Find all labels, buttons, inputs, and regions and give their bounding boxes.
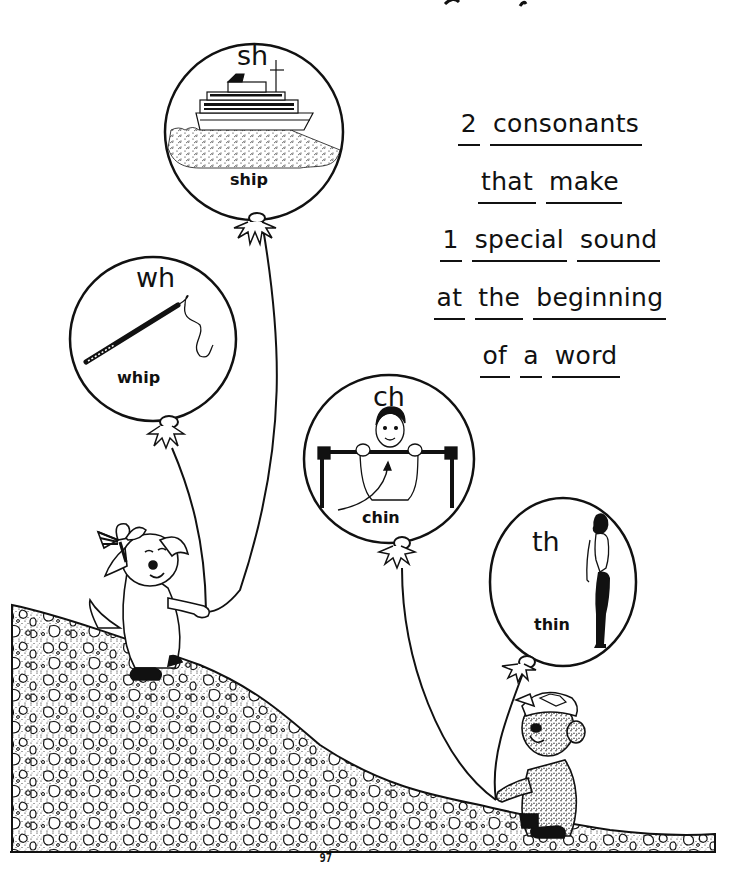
rule-line-5: of a word <box>400 320 700 378</box>
balloon-sh <box>165 44 343 244</box>
rule-word: make <box>546 167 622 204</box>
digraph-label-wh: wh <box>136 262 175 293</box>
rule-line-1: 2 consonants <box>400 88 700 146</box>
digraph-label-th: th <box>532 526 560 557</box>
word-label-thin: thin <box>534 615 570 634</box>
digraph-label-ch: ch <box>373 381 405 412</box>
page-number: 97 <box>320 850 333 865</box>
rule-word: special <box>472 225 567 262</box>
rule-word: consonants <box>490 109 642 146</box>
rule-word: at <box>434 283 466 320</box>
rule-word: the <box>475 283 523 320</box>
rule-line-4: at the beginning <box>400 262 700 320</box>
rule-word: a <box>520 341 542 378</box>
digraph-rule: 2 consonants that make 1 special sound a… <box>400 88 700 378</box>
rule-line-2: that make <box>400 146 700 204</box>
word-label-whip: whip <box>117 368 160 387</box>
dog-tail <box>90 600 120 628</box>
word-label-chin: chin <box>362 508 400 527</box>
rule-word: beginning <box>533 283 666 320</box>
rule-line-3: 1 special sound <box>400 204 700 262</box>
rule-word: that <box>478 167 536 204</box>
rule-word: sound <box>577 225 660 262</box>
rule-word: 2 <box>458 109 480 146</box>
rule-word: of <box>480 341 511 378</box>
balloon-th <box>490 498 636 682</box>
rule-word: 1 <box>440 225 462 262</box>
cropped-heading-fragment <box>445 0 526 6</box>
worksheet-page: 2 consonants that make 1 special sound a… <box>0 0 751 890</box>
digraph-label-sh: sh <box>237 40 268 71</box>
rule-word: word <box>552 341 621 378</box>
word-label-ship: ship <box>230 170 268 189</box>
